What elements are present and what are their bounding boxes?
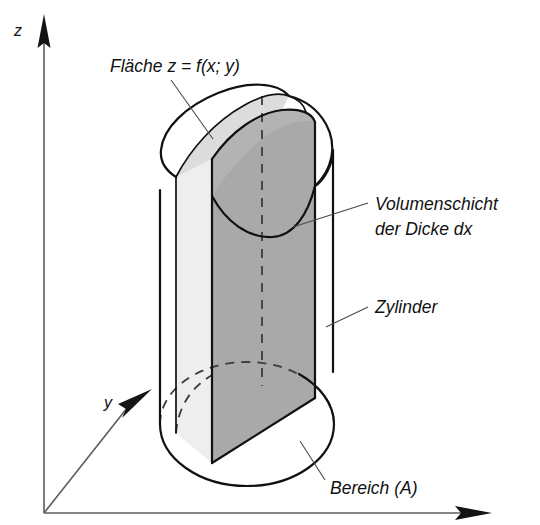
y-axis-line: [44, 398, 135, 513]
cylinder-label: Zylinder: [374, 297, 438, 317]
z-axis-label: z: [13, 22, 22, 39]
y-axis-label: y: [103, 394, 113, 411]
z-axis-arrowhead: [38, 14, 51, 48]
cylinder-solid: [160, 85, 334, 486]
surface-label: Fläche z = f(x; y): [110, 56, 240, 76]
left-wall-face: [160, 177, 176, 433]
volume-layer-label-line1: Volumenschicht: [375, 194, 499, 214]
volume-layer-label-line2: der Dicke dx: [375, 219, 474, 239]
figure-container: z y Fläche z = f(x; y) Volumenschicht de…: [0, 0, 540, 525]
diagram-svg: z y Fläche z = f(x; y) Volumenschicht de…: [0, 0, 540, 525]
region-label: Bereich (A): [330, 478, 418, 498]
slab-side-face: [176, 159, 212, 463]
